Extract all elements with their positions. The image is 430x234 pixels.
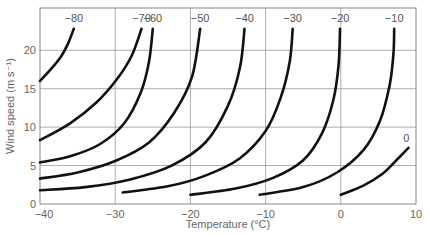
curve-minus10	[260, 29, 395, 195]
curve-label: −80	[65, 12, 84, 24]
curve-minus30	[123, 29, 293, 193]
curve-minus40	[40, 29, 245, 190]
curve-minus70	[40, 29, 142, 140]
curve-label: −60	[143, 12, 162, 24]
x-axis-label: Temperature (°C)	[186, 218, 270, 230]
curves	[40, 29, 409, 195]
curve-label: −40	[235, 12, 254, 24]
x-tick-label: −30	[106, 208, 125, 220]
x-tick-label: −40	[35, 208, 54, 220]
y-tick-label: 20	[24, 44, 36, 56]
curve-minus80	[40, 29, 74, 81]
y-tick-label: 0	[30, 198, 36, 210]
curve-label: −10	[385, 12, 404, 24]
curve-label: 0	[403, 132, 409, 144]
y-axis-label: Wind speed (m s⁻¹)	[4, 58, 16, 154]
y-tick-label: 5	[30, 160, 36, 172]
x-tick-label: 10	[410, 208, 422, 220]
y-tick-label: 10	[24, 121, 36, 133]
y-axis-ticks: 05101520	[24, 44, 36, 210]
y-tick-label: 15	[24, 83, 36, 95]
curve-label: −20	[331, 12, 350, 24]
curve-label: −30	[283, 12, 302, 24]
curve-0	[341, 148, 409, 195]
wind-chill-chart: −80−70−60−50−40−30−20−100 −40−30−20−1001…	[0, 0, 430, 234]
x-tick-label: 0	[338, 208, 344, 220]
curve-label: −50	[191, 12, 210, 24]
